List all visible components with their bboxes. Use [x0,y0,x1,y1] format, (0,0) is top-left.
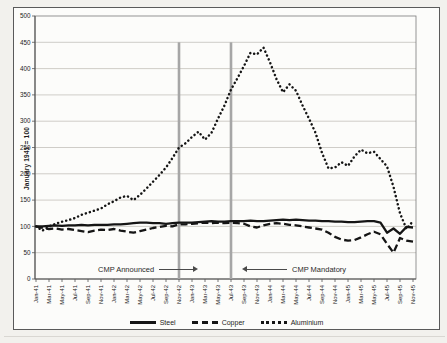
svg-text:May-45: May-45 [371,284,377,304]
svg-text:Jan-44: Jan-44 [267,284,273,303]
steel-line-sample-icon [130,321,156,324]
svg-text:50: 50 [23,249,31,256]
svg-text:Nov-41: Nov-41 [98,285,104,304]
legend-item-copper: Copper [192,319,245,326]
svg-text:100: 100 [20,223,31,230]
svg-text:May-44: May-44 [293,284,299,304]
svg-text:Jan-42: Jan-42 [111,285,117,303]
copper-line-sample-icon [192,321,218,324]
legend-item-aluminium: Aluminium [261,319,324,326]
svg-text:400: 400 [20,65,31,72]
svg-text:May-43: May-43 [215,284,221,304]
legend-label-steel: Steel [160,319,176,326]
annotation-cmp-mandatory: CMP Mandatory [247,265,346,273]
svg-text:Sep-45: Sep-45 [397,284,403,304]
svg-text:Sep-41: Sep-41 [85,285,91,304]
svg-text:Mar-42: Mar-42 [124,285,130,304]
figure-frame: 050100150200250300350400450500Jan-41Mar-… [13,7,440,330]
svg-text:May-42: May-42 [137,285,143,305]
svg-text:Sep-42: Sep-42 [163,285,169,304]
chart-svg: 050100150200250300350400450500Jan-41Mar-… [1,1,447,343]
legend-item-steel: Steel [130,319,176,326]
annotation-cmp-mandatory-label: CMP Mandatory [292,265,346,274]
svg-text:Nov-43: Nov-43 [254,284,260,304]
svg-text:May-41: May-41 [59,285,65,305]
svg-text:450: 450 [20,39,31,46]
aluminium-line-sample-icon [261,321,287,324]
svg-text:Jul-45: Jul-45 [384,284,390,301]
svg-text:0: 0 [27,275,31,282]
svg-text:Mar-45: Mar-45 [358,284,364,303]
svg-text:500: 500 [20,12,31,19]
svg-text:350: 350 [20,91,31,98]
svg-text:Nov-45: Nov-45 [410,284,416,304]
y-axis-title: January 1941 = 100 [23,104,30,214]
annotation-cmp-announced-label: CMP Announced [98,265,154,274]
page-edge-shadow [4,336,445,337]
svg-text:Mar-41: Mar-41 [46,285,52,304]
right-arrow-icon [159,269,193,270]
screenshot-root: { "figure": { "background": "#fcfcfa", "… [0,0,447,343]
svg-text:Sep-43: Sep-43 [241,284,247,304]
svg-text:Sep-44: Sep-44 [319,284,325,304]
left-arrow-icon [247,269,287,270]
svg-text:Jan-43: Jan-43 [189,284,195,303]
annotation-cmp-announced: CMP Announced [98,265,193,273]
svg-text:Mar-43: Mar-43 [202,284,208,303]
svg-text:Jul-41: Jul-41 [72,285,78,301]
svg-text:Jan-41: Jan-41 [33,285,39,303]
svg-text:Jul-44: Jul-44 [306,284,312,301]
svg-text:Mar-44: Mar-44 [280,284,286,303]
legend-label-aluminium: Aluminium [291,319,324,326]
svg-text:Jul-43: Jul-43 [228,284,234,301]
chart-legend: Steel Copper Aluminium [14,319,439,326]
legend-label-copper: Copper [222,319,245,326]
svg-text:Jul-42: Jul-42 [150,285,156,301]
svg-text:Nov-44: Nov-44 [332,284,338,304]
svg-text:Jan-45: Jan-45 [345,284,351,303]
svg-text:Nov-42: Nov-42 [176,285,182,304]
